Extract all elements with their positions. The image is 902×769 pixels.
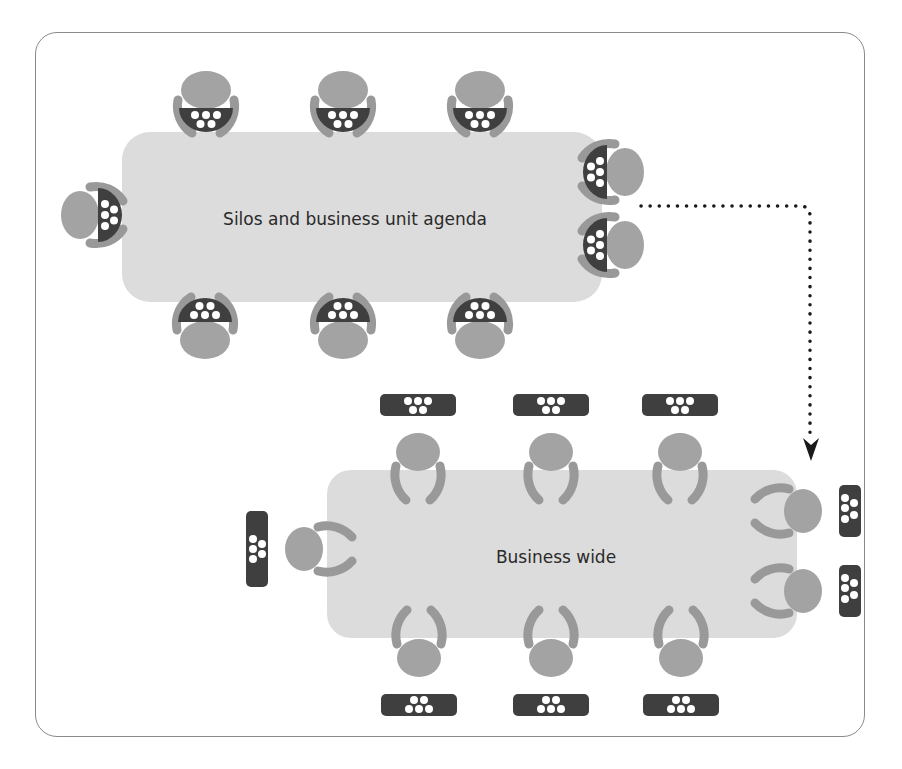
seat-silos-left — [61, 186, 123, 243]
meeting-tables-diagram: Silos and business unit agenda Business … — [0, 0, 902, 769]
seat-silos-right-1 — [582, 143, 644, 200]
seat-silos-top-1 — [177, 71, 234, 133]
arrow-down-icon — [803, 438, 819, 461]
seat-silos-right-2 — [582, 216, 644, 273]
seat-silos-bottom-2 — [314, 297, 371, 359]
connector-arrow — [641, 206, 819, 461]
seat-silos-top-2 — [314, 71, 371, 133]
table-silos: Silos and business unit agenda — [61, 71, 644, 359]
seat-silos-bottom-1 — [176, 297, 233, 359]
table-business-wide-label: Business wide — [496, 547, 616, 567]
seat-silos-top-3 — [451, 71, 508, 133]
table-silos-label: Silos and business unit agenda — [223, 209, 487, 229]
table-business-wide: Business wide — [246, 394, 861, 716]
seat-silos-bottom-3 — [451, 297, 508, 359]
